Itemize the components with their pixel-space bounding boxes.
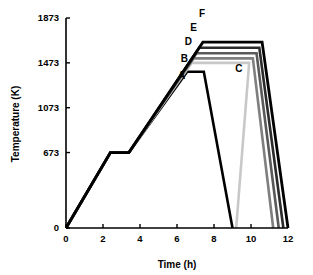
y-tick-label-1873: 1873 [38,12,59,23]
y-tick-label-673: 673 [43,147,59,158]
x-tick-label-6: 6 [174,233,179,244]
x-tick-label-12: 12 [283,233,294,244]
series-line-e [66,48,283,228]
x-tick-label-8: 8 [211,233,216,244]
x-tick-label-0: 0 [63,233,68,244]
curve-label-e: E [190,22,197,33]
curve-label-a: A [178,70,185,81]
x-tick-label-10: 10 [246,233,257,244]
x-axis-title: Time (h) [158,259,197,270]
y-axis-title: Temperature (K) [10,86,21,163]
x-tick-label-2: 2 [100,233,105,244]
y-tick-label-1073: 1073 [38,102,59,113]
curve-label-d: D [185,36,192,47]
curve-label-c: C [235,63,242,74]
y-tick-label-1473: 1473 [38,57,59,68]
y-tick-label-0: 0 [54,222,59,233]
axis-layer [66,18,288,228]
curve-label-f: F [199,8,205,19]
x-tick-label-4: 4 [137,233,143,244]
curve-label-b: B [181,53,188,64]
series-line-b [66,63,249,228]
temperature-time-chart: 0673107314731873024681012 ABCDEF Time (h… [0,0,313,275]
series-line-a [66,72,233,228]
chart-container: 0673107314731873024681012 ABCDEF Time (h… [0,0,313,275]
series-layer [66,42,288,228]
